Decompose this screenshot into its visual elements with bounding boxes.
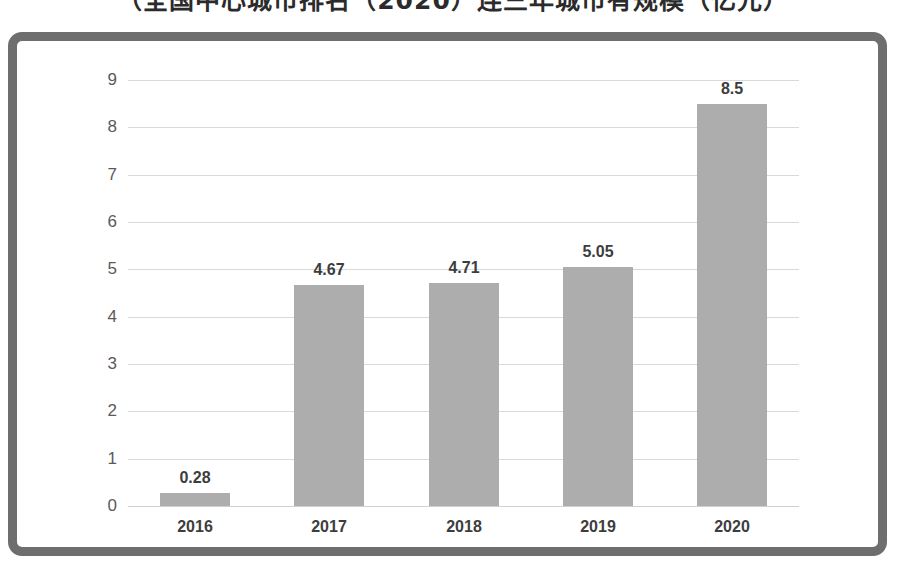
y-axis-tick-label: 3	[77, 354, 117, 374]
bar-2016[interactable]	[160, 493, 230, 506]
bar-value-label-2017: 4.67	[274, 261, 384, 279]
y-axis-tick-label: 4	[77, 307, 117, 327]
bar-value-label-2018: 4.71	[409, 259, 519, 277]
y-axis-tick-label: 5	[77, 259, 117, 279]
chart-title-strip: （全国中心城市排名（2020）连三年城市有规模（亿元）	[0, 0, 906, 20]
x-axis-label-2019: 2019	[538, 518, 658, 536]
x-axis-label-2020: 2020	[672, 518, 792, 536]
y-axis-tick-label: 2	[77, 401, 117, 421]
bar-2018[interactable]	[429, 283, 499, 506]
y-axis-tick-label: 1	[77, 449, 117, 469]
bar-2020[interactable]	[697, 104, 767, 506]
bar-2019[interactable]	[563, 267, 633, 506]
chart-frame: 01234567890.2820164.6720174.7120185.0520…	[8, 32, 887, 556]
page-title: （全国中心城市排名（2020）连三年城市有规模（亿元）	[117, 0, 789, 16]
bar-value-label-2020: 8.5	[677, 80, 787, 98]
plot-area: 01234567890.2820164.6720174.7120185.0520…	[17, 41, 896, 565]
gridline	[128, 506, 799, 507]
bar-value-label-2019: 5.05	[543, 243, 653, 261]
x-axis-label-2017: 2017	[269, 518, 389, 536]
y-axis-tick-label: 8	[77, 117, 117, 137]
x-axis-label-2018: 2018	[404, 518, 524, 536]
y-axis-tick-label: 7	[77, 165, 117, 185]
bar-value-label-2016: 0.28	[140, 469, 250, 487]
y-axis-tick-label: 6	[77, 212, 117, 232]
bar-2017[interactable]	[294, 285, 364, 506]
x-axis-label-2016: 2016	[135, 518, 255, 536]
y-axis-tick-label: 0	[77, 496, 117, 516]
y-axis-tick-label: 9	[77, 70, 117, 90]
